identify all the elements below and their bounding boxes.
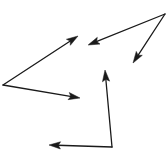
angle-figures-diagram: [0, 0, 167, 164]
diagram-canvas: [0, 0, 167, 164]
diagram-background: [0, 0, 167, 164]
